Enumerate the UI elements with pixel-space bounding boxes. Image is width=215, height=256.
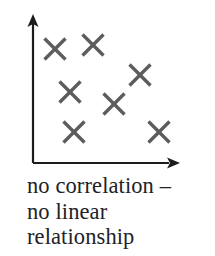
plot-svg <box>0 0 215 172</box>
data-point-marker <box>64 122 85 143</box>
plot-area <box>0 0 215 172</box>
caption: no correlation – no linear relationship <box>27 173 215 250</box>
data-point-marker <box>104 94 125 115</box>
data-point-marker <box>130 65 151 86</box>
data-point-marker-group <box>45 35 170 143</box>
data-point-marker <box>149 122 170 143</box>
caption-line-3: relationship <box>27 224 215 250</box>
data-point-marker <box>45 39 66 60</box>
scatter-plot-figure: no correlation – no linear relationship <box>0 0 215 256</box>
data-point-marker <box>83 35 104 56</box>
data-point-marker <box>60 82 81 103</box>
caption-line-1: no correlation – <box>27 173 215 199</box>
caption-line-2: no linear <box>27 199 215 225</box>
